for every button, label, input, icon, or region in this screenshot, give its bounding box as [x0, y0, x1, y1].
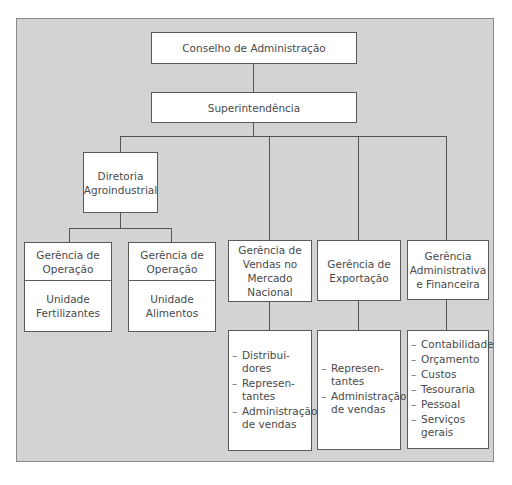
item-line: Orçamento [421, 353, 488, 366]
list-item: Orçamento [411, 353, 488, 366]
node-superintendence-label: Superintendência [208, 101, 300, 115]
connector-to-export [358, 136, 359, 240]
item-line: tantes [242, 390, 311, 403]
list-item: Administração de vendas [321, 390, 400, 416]
list-item: Represen- tantes [321, 362, 400, 388]
list-item: Serviços gerais [411, 413, 488, 439]
item-line: Administração [331, 390, 400, 403]
list-item: Represen- tantes [232, 377, 311, 403]
item-line: tantes [331, 375, 400, 388]
list-item: Tesouraria [411, 383, 488, 396]
node-ops-fertilizantes: Gerência de Operação Unidade Fertilizant… [24, 242, 112, 332]
title-line-2: Operação [43, 262, 94, 276]
node-agro-director-line-2: Agroindustrial [84, 183, 157, 197]
unit-line-1: Unidade [150, 292, 193, 306]
connector-to-adminfin [446, 136, 447, 240]
title-line-3: e Financeira [416, 277, 480, 291]
title-line-1: Gerência [425, 249, 472, 263]
sales-functions-list: Distribui- dores Represen- tantes Admini… [228, 330, 312, 451]
connector-to-ops-fert [69, 228, 70, 242]
unit-line-1: Unidade [46, 292, 89, 306]
title-line-3: Mercado [248, 271, 293, 285]
connector-export-list [358, 300, 359, 330]
connector-board-super [253, 63, 254, 92]
title-line-2: Operação [147, 262, 198, 276]
item-line: Custos [421, 368, 488, 381]
item-line: Distribui- [242, 349, 311, 362]
connector-to-sales [269, 136, 270, 240]
title-line-1: Gerência de [238, 243, 301, 257]
connector-sales-list [269, 301, 270, 330]
connector-super-branch [253, 122, 254, 136]
node-board: Conselho de Administração [151, 32, 357, 64]
export-functions-list: Represen- tantes Administração de vendas [317, 330, 401, 450]
connector-ops-branch [69, 228, 172, 229]
node-agro-director-line-1: Diretoria [98, 169, 144, 183]
node-agro-director: Diretoria Agroindustrial [83, 152, 158, 213]
connector-main-branch [120, 136, 447, 137]
connector-adminfin-list [446, 299, 447, 330]
item-line: Tesouraria [421, 383, 488, 396]
title-line-2: Administrativa [410, 263, 486, 277]
unit-line-2: Alimentos [146, 306, 198, 320]
admin-finance-functions-list: Contabilidade Orçamento Custos Tesourari… [407, 330, 489, 449]
connector-to-ops-food [171, 228, 172, 242]
list-item: Contabilidade [411, 338, 488, 351]
title-line-2: Vendas no [243, 257, 297, 271]
title-line-1: Gerência de [140, 248, 203, 262]
title-line-1: Gerência de [327, 257, 390, 271]
node-export: Gerência de Exportação [317, 240, 401, 301]
node-sales-national: Gerência de Vendas no Mercado Nacional [228, 240, 312, 302]
item-line: dores [242, 362, 311, 375]
node-ops-fertilizantes-title: Gerência de Operação [25, 243, 111, 281]
node-ops-fertilizantes-unit: Unidade Fertilizantes [25, 281, 111, 331]
item-line: Pessoal [421, 398, 488, 411]
title-line-4: Nacional [247, 285, 292, 299]
list-item: Custos [411, 368, 488, 381]
list-item: Pessoal [411, 398, 488, 411]
item-line: Represen- [331, 362, 400, 375]
list-item: Administração de vendas [232, 405, 311, 431]
item-line: Administração [242, 405, 311, 418]
item-line: Contabilidade [421, 338, 488, 351]
unit-line-2: Fertilizantes [36, 306, 100, 320]
title-line-1: Gerência de [36, 248, 99, 262]
node-superintendence: Superintendência [151, 92, 357, 123]
item-line: de vendas [242, 418, 311, 431]
connector-to-director [120, 136, 121, 152]
node-ops-alimentos: Gerência de Operação Unidade Alimentos [128, 242, 216, 332]
node-admin-finance: Gerência Administrativa e Financeira [407, 240, 489, 300]
node-board-label: Conselho de Administração [182, 41, 326, 55]
item-line: Serviços [421, 413, 488, 426]
item-line: gerais [421, 426, 488, 439]
node-ops-alimentos-title: Gerência de Operação [129, 243, 215, 281]
title-line-2: Exportação [329, 271, 388, 285]
node-ops-alimentos-unit: Unidade Alimentos [129, 281, 215, 331]
item-line: de vendas [331, 403, 400, 416]
item-line: Represen- [242, 377, 311, 390]
connector-director-branch [120, 212, 121, 228]
list-item: Distribui- dores [232, 349, 311, 375]
